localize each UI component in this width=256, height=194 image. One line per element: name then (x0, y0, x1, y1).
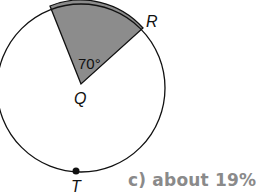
label-q: Q (74, 90, 86, 107)
label-r: R (146, 13, 158, 30)
label-t: T (71, 178, 82, 194)
angle-label: 70° (78, 55, 101, 72)
point-t-dot (73, 168, 80, 175)
answer-text: c) about 19% (128, 170, 256, 190)
circle-diagram: R 70° Q T (0, 0, 256, 194)
